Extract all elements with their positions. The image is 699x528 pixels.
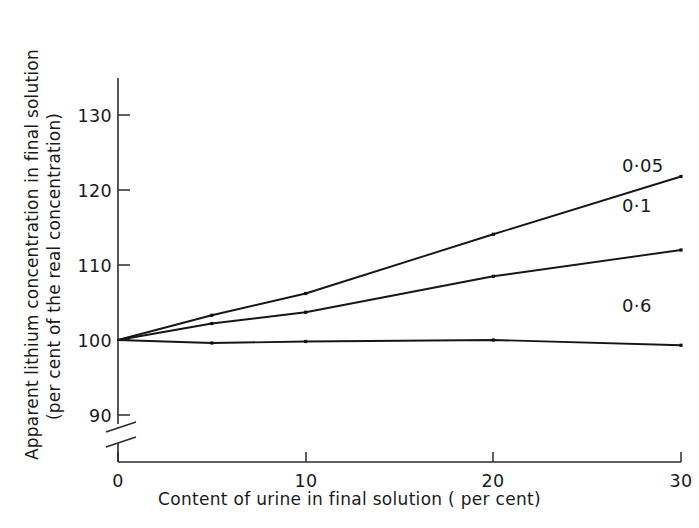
chart-plot-area: 130 120 110 100 90 0 10 20 30 0·05 0·1 0… [0,0,699,528]
y-tick-label-110: 110 [77,256,112,276]
series-group-1 [118,248,683,340]
data-point [679,175,682,178]
y-axis-title: Apparent lithium concentration in final … [0,0,80,470]
chart-figure: 130 120 110 100 90 0 10 20 30 0·05 0·1 0… [0,0,699,528]
y-axis-title-line-2: (per cent of the real concentration) [44,113,64,420]
y-tick-label-90: 90 [89,406,112,426]
y-tick-label-130: 130 [77,106,112,126]
y-tick-label-120: 120 [77,181,112,201]
y-tick-label-100: 100 [77,331,112,351]
series-line-0-05 [118,177,681,341]
data-point [210,341,213,344]
data-point [304,311,307,314]
data-point [679,344,682,347]
series-label-0-05: 0·05 [622,155,664,176]
series-group-0 [118,175,683,340]
data-point [210,314,213,317]
x-tick-label-10: 10 [294,471,317,491]
data-point [492,233,495,236]
data-point [492,275,495,278]
x-tick-label-30: 30 [669,471,692,491]
series-label-0-1: 0·1 [622,195,652,216]
x-tick-label-0: 0 [112,471,124,491]
data-point [210,322,213,325]
series-points-0-05 [210,175,682,317]
data-point [304,340,307,343]
data-point [679,248,682,251]
series-label-0-6: 0·6 [622,295,652,316]
data-point [492,338,495,341]
y-axis-break-slash-lower [106,437,136,447]
series-group-2 [118,338,683,346]
x-tick-label-20: 20 [481,471,504,491]
series-line-0-6 [118,340,681,345]
x-axis-title: Content of urine in final solution ( per… [0,489,699,509]
data-point [304,292,307,295]
y-axis-title-line-1: Apparent lithium concentration in final … [22,49,42,460]
